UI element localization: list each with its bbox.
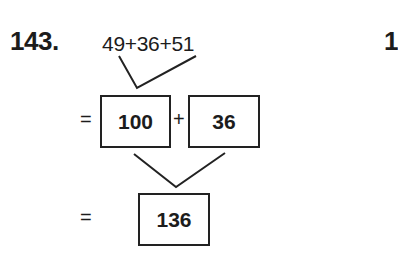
equals-sign-1: =: [80, 107, 92, 131]
plus-sign: +: [173, 107, 185, 131]
result-box: 136: [138, 193, 210, 246]
result-box-value: 136: [156, 208, 191, 232]
top-grouping-line: [119, 56, 196, 88]
bottom-grouping-line: [134, 153, 225, 187]
equals-sign-2: =: [80, 205, 92, 229]
addend-box-value: 36: [212, 110, 235, 134]
next-problem-number: 1: [384, 26, 398, 56]
sum-box-value: 100: [118, 110, 153, 134]
addend-box-36: 36: [188, 95, 260, 148]
sum-box-100: 100: [100, 95, 171, 148]
